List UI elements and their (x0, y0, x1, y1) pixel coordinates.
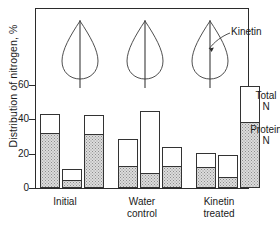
bar-kinetin-treated-1-protein (197, 167, 215, 187)
bar-kinetin-treated-1 (196, 153, 216, 188)
x-category-label-kinetin-treated: Kinetin treated (190, 196, 248, 219)
x-category-label-water-control: Water control (114, 196, 170, 219)
bar-kinetin-treated-2 (218, 155, 238, 188)
legend-total-n: Total N (252, 90, 280, 112)
bar-initial-2-protein (63, 180, 81, 187)
bar-series (0, 0, 280, 225)
bar-initial-3 (84, 115, 104, 188)
figure-nitrogen-distribution: Distribution of nitrogen, % 0 20 40 60 (0, 0, 280, 225)
bar-initial-3-protein (85, 134, 103, 187)
legend-protein-n: Protein N (250, 124, 280, 146)
bar-initial-2 (62, 169, 82, 188)
bar-water-control-1-protein (119, 166, 137, 187)
bar-initial-1-protein (41, 133, 59, 187)
bar-kinetin-treated-2-protein (219, 177, 237, 187)
x-category-label-initial: Initial (37, 196, 93, 208)
bar-water-control-3 (162, 147, 182, 188)
bar-water-control-1 (118, 139, 138, 188)
bar-water-control-2 (140, 111, 160, 188)
bar-water-control-3-protein (163, 166, 181, 187)
bar-water-control-2-protein (141, 173, 159, 187)
bar-initial-1 (40, 114, 60, 188)
